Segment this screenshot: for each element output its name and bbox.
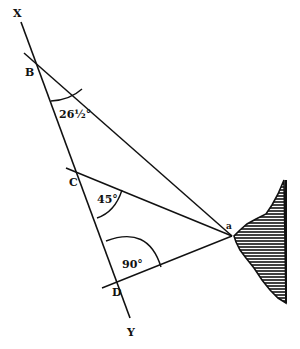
- cliff-hatched: [234, 180, 286, 303]
- label-a: a: [226, 221, 232, 231]
- baseline-xy: [21, 22, 130, 318]
- label-d: D: [112, 286, 122, 299]
- angle-label-b: 26½°: [59, 108, 91, 121]
- label-y: Y: [126, 326, 135, 339]
- label-c: C: [69, 176, 78, 189]
- angle-label-c: 45°: [97, 193, 118, 206]
- label-x: X: [13, 7, 22, 20]
- sight-line-ba: [24, 53, 232, 236]
- angle-label-d: 90°: [122, 258, 143, 271]
- label-b: B: [25, 66, 34, 79]
- diagram-canvas: X B C D Y a 26½° 45° 90°: [0, 0, 300, 349]
- sight-line-ca: [66, 168, 232, 236]
